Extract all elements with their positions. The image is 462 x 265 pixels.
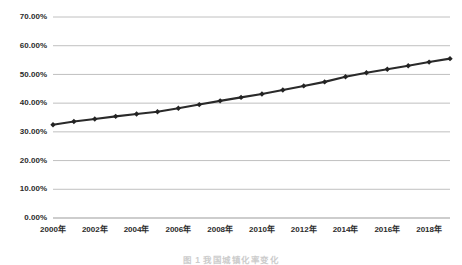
x-tick-label-2002: 2002年 <box>82 224 108 234</box>
y-tick-label-0: 0.00% <box>24 213 47 222</box>
x-tick-label-2010: 2010年 <box>249 224 275 234</box>
x-tick-label-2004: 2004年 <box>124 224 150 234</box>
y-tick-label-60: 60.00% <box>20 41 47 50</box>
figure-caption: 图 1 我国城镇化率变化 <box>0 254 462 265</box>
x-tick-label-2012: 2012年 <box>291 224 317 234</box>
x-tick-label-2008: 2008年 <box>207 224 233 234</box>
x-tick-label-2016: 2016年 <box>374 224 400 234</box>
y-tick-label-30: 30.00% <box>20 127 47 136</box>
x-tick-label-2018: 2018年 <box>416 224 442 234</box>
line-chart: 0.00%10.00%20.00%30.00%40.00%50.00%60.00… <box>0 0 462 240</box>
y-tick-label-50: 50.00% <box>20 70 47 79</box>
y-tick-label-20: 20.00% <box>20 156 47 165</box>
x-tick-label-2014: 2014年 <box>333 224 359 234</box>
chart-background <box>0 0 462 240</box>
y-tick-label-40: 40.00% <box>20 98 47 107</box>
x-tick-label-2000: 2000年 <box>40 224 66 234</box>
x-tick-label-2006: 2006年 <box>165 224 191 234</box>
y-tick-label-10: 10.00% <box>20 184 47 193</box>
y-tick-label-70: 70.00% <box>20 12 47 21</box>
